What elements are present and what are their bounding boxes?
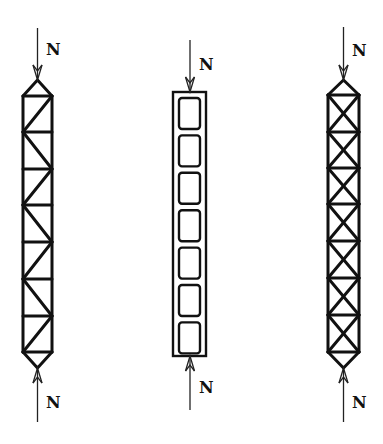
inner-panel-box [179,98,200,129]
column-battened: NN [173,40,214,410]
column-cross-braced-truss: NN [328,27,367,422]
force-label-n: N [352,393,367,412]
bottom-force-arrow: N [33,368,61,422]
top-force-arrow: N [339,27,367,80]
force-label-n: N [46,40,61,59]
diagonal-brace [23,169,52,205]
bottom-end-taper [328,352,359,368]
inner-panel-box [179,173,200,204]
top-end-taper [23,80,52,96]
inner-panel-box [179,285,200,316]
diagonal-brace [23,132,52,169]
inner-panel-box [179,322,200,353]
diagonal-brace [23,205,52,242]
diagonal-brace [23,96,52,132]
inner-panel-box [179,248,200,279]
bottom-force-arrow: N [186,356,214,410]
diagonal-brace [23,242,52,279]
column-single-diagonal-truss: NN [23,28,61,422]
diagram-canvas: NN NN NN [0,0,383,444]
top-force-arrow: N [186,40,214,92]
force-label-n: N [352,41,367,60]
top-force-arrow: N [33,28,61,80]
force-label-n: N [46,393,61,412]
force-label-n: N [199,378,214,397]
force-label-n: N [199,55,214,74]
bottom-end-taper [23,352,52,368]
diagonal-brace [23,279,52,316]
inner-panel-box [179,135,200,166]
bottom-force-arrow: N [339,368,367,422]
inner-panel-box [179,210,200,241]
diagonal-brace [23,316,52,352]
